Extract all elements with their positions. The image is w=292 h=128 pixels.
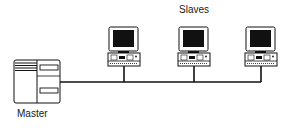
- slaves-label: Slaves: [179, 4, 209, 15]
- slave-computer-3-icon: [245, 27, 277, 82]
- master-server-icon: [14, 60, 60, 103]
- slave-computer-2-icon: [178, 27, 210, 82]
- master-label: Master: [17, 108, 48, 119]
- slave-computer-1-icon: [108, 27, 140, 82]
